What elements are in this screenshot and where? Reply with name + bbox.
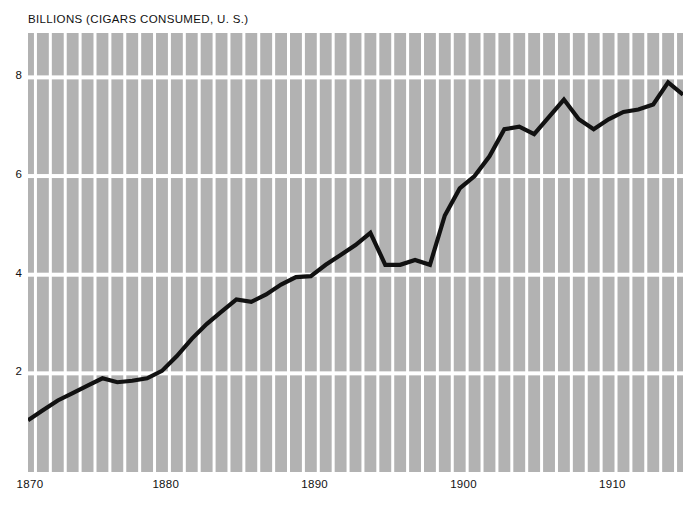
plot-svg	[28, 33, 683, 472]
vertical-gridline	[674, 33, 677, 472]
vertical-gridline	[421, 33, 424, 472]
x-axis-tick-label: 1900	[450, 478, 477, 490]
vertical-gridline	[302, 33, 305, 472]
vertical-gridline	[34, 33, 37, 472]
vertical-gridline	[242, 33, 245, 472]
x-axis-tick-label: 1890	[301, 478, 328, 490]
vertical-gridline	[93, 33, 96, 472]
horizontal-gridline	[28, 75, 683, 79]
vertical-gridline	[600, 33, 603, 472]
y-axis-tick-label: 2	[4, 365, 22, 377]
vertical-gridline	[466, 33, 469, 472]
y-axis-tick-label: 4	[4, 267, 22, 279]
y-axis-tick-label: 6	[4, 168, 22, 180]
horizontal-gridline	[28, 273, 683, 277]
vertical-gridline	[213, 33, 216, 472]
x-axis-tick-label: 1880	[152, 478, 179, 490]
vertical-gridline	[64, 33, 67, 472]
vertical-gridline	[257, 33, 260, 472]
cigar-consumption-chart: BILLIONS (CIGARS CONSUMED, U. S.) 2468 1…	[0, 0, 694, 506]
vertical-gridline	[138, 33, 141, 472]
x-axis-tick-label: 1910	[599, 478, 626, 490]
vertical-gridline	[406, 33, 409, 472]
vertical-gridline	[585, 33, 588, 472]
chart-title: BILLIONS (CIGARS CONSUMED, U. S.)	[28, 13, 249, 25]
vertical-gridline	[79, 33, 82, 472]
vertical-gridline	[227, 33, 230, 472]
plot-area	[28, 33, 683, 472]
vertical-gridline	[168, 33, 171, 472]
vertical-gridline	[570, 33, 573, 472]
vertical-gridline	[525, 33, 528, 472]
vertical-gridline	[615, 33, 618, 472]
vertical-gridline	[555, 33, 558, 472]
vertical-gridline	[629, 33, 632, 472]
vertical-gridline	[108, 33, 111, 472]
vertical-gridline	[451, 33, 454, 472]
vertical-gridline	[659, 33, 662, 472]
vertical-gridline	[391, 33, 394, 472]
y-axis-tick-label: 8	[4, 69, 22, 81]
vertical-gridline	[317, 33, 320, 472]
x-axis-tick-label: 1870	[17, 478, 44, 490]
vertical-gridline	[510, 33, 513, 472]
vertical-gridline	[123, 33, 126, 472]
vertical-gridline	[183, 33, 186, 472]
vertical-gridline	[287, 33, 290, 472]
vertical-gridline	[481, 33, 484, 472]
vertical-gridline	[540, 33, 543, 472]
horizontal-gridline	[28, 174, 683, 178]
vertical-gridline	[272, 33, 275, 472]
vertical-gridline	[436, 33, 439, 472]
vertical-gridline	[198, 33, 201, 472]
horizontal-gridline	[28, 371, 683, 375]
vertical-gridline	[332, 33, 335, 472]
vertical-gridline	[644, 33, 647, 472]
vertical-gridline	[361, 33, 364, 472]
vertical-gridline	[495, 33, 498, 472]
vertical-gridline	[153, 33, 156, 472]
